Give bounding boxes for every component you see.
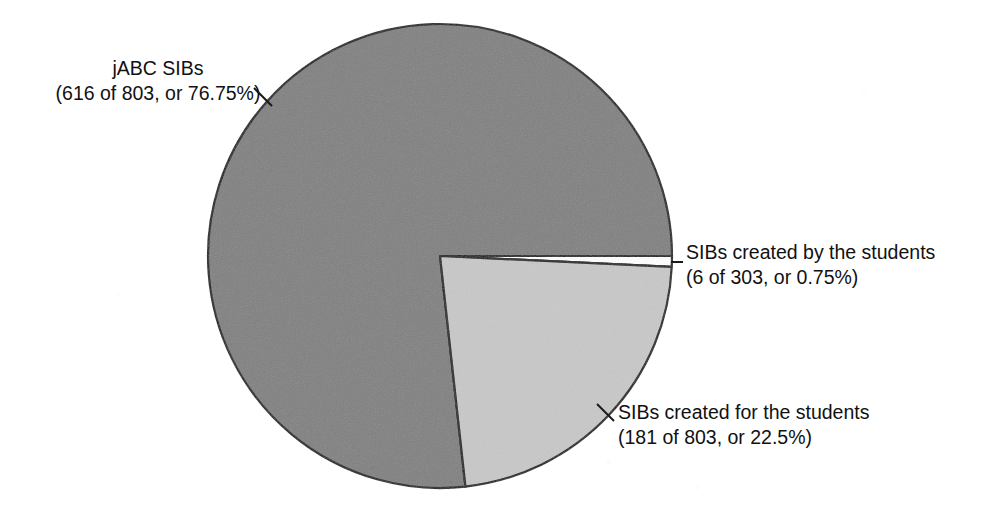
pie-slice-sibs-created-for-students[interactable] [440,256,672,487]
pie-label-sibs-created-for-students-line2: (181 of 803, or 22.5%) [618,425,869,450]
pie-label-sibs-created-by-students-line2: (6 of 303, or 0.75%) [686,265,935,290]
pie-label-jabc-sibs-line1: jABC SIBs [52,56,264,81]
pie-label-jabc-sibs: jABC SIBs (616 of 803, or 76.75%) [52,56,264,106]
pie-label-sibs-created-by-students-line1: SIBs created by the students [686,240,935,265]
pie-label-sibs-created-for-students: SIBs created for the students (181 of 80… [618,400,869,450]
pie-chart-page: jABC SIBs (616 of 803, or 76.75%) SIBs c… [0,0,982,508]
pie-label-sibs-created-for-students-line1: SIBs created for the students [618,400,869,425]
pie-label-jabc-sibs-line2: (616 of 803, or 76.75%) [52,81,264,106]
pie-label-sibs-created-by-students: SIBs created by the students (6 of 303, … [686,240,935,290]
